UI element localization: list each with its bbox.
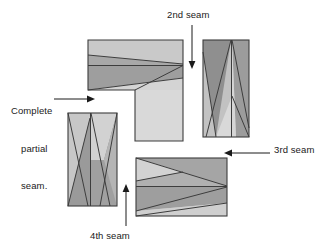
fourth-seam-label: 4th seam: [90, 230, 130, 243]
bottom-center-horizontal-block: [136, 158, 227, 216]
right-vertical-block: [203, 40, 249, 137]
second-seam-arrow-head: [189, 61, 196, 69]
complete-partial-seam-label-line1: Complete: [11, 105, 52, 118]
l-block-square-section: [135, 90, 183, 141]
second-seam-label: 2nd seam: [167, 9, 210, 22]
second-seam-arrow: [189, 25, 196, 69]
fourth-seam-arrow-head: [123, 184, 130, 192]
complete-partial-seam-label-line3: seam.: [11, 180, 52, 193]
complete-partial-seam-arrow: [54, 96, 95, 103]
fourth-seam-arrow: [123, 184, 130, 226]
bottom-left-vertical-block: [68, 113, 117, 206]
l-block-square-patch: [135, 90, 183, 141]
l-block-bar-lower-half: [88, 66, 183, 90]
complete-partial-seam-label-line2: partial: [11, 143, 52, 156]
complete-partial-seam-arrow-head: [87, 96, 95, 103]
quilting-seam-diagram: 2nd seam 3rd seam 4th seam Complete part…: [0, 0, 327, 251]
l-block-bar-upper-half: [88, 40, 183, 65]
third-seam-arrow-head: [224, 150, 232, 157]
third-seam-arrow: [224, 150, 270, 157]
complete-partial-seam-label: Complete partial seam.: [11, 80, 52, 218]
third-seam-label: 3rd seam: [274, 144, 314, 157]
